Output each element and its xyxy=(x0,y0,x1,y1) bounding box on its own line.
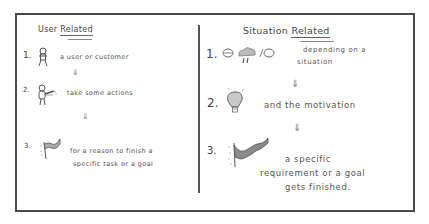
left-step-2-number: 2. xyxy=(23,86,30,94)
right-step-2-text: and the motivation xyxy=(264,99,356,111)
lightbulb-icon xyxy=(226,88,248,116)
right-step-3-number: 3. xyxy=(207,145,217,156)
right-step-1-text-line2: situation xyxy=(297,56,333,68)
flag-icon xyxy=(38,136,62,160)
right-step-3-text-line2: requirement or a goal xyxy=(260,167,365,179)
left-step-3-text-line1: for a reason to finish a xyxy=(70,146,153,156)
title-underlined-word: Related xyxy=(291,25,329,38)
person-acting-icon xyxy=(36,84,58,106)
down-arrow-icon: ⇓ xyxy=(82,112,89,121)
diagram-frame xyxy=(15,13,415,212)
left-step-1-text: a user or customer xyxy=(60,52,129,62)
right-step-2-number: 2. xyxy=(207,96,218,110)
right-step-3-text-line3: gets finished. xyxy=(285,181,351,193)
title-underlined-word: Related xyxy=(60,25,92,36)
left-step-2-text: take some actions xyxy=(67,88,133,98)
title-word: Situation xyxy=(243,25,288,36)
left-step-1-number: 1. xyxy=(23,50,32,60)
person-icon xyxy=(36,47,50,67)
flag-icon xyxy=(226,137,274,169)
down-arrow-icon: ⇓ xyxy=(72,68,79,77)
down-arrow-icon: ⇓ xyxy=(293,122,301,133)
right-step-3-text-line1: a specific xyxy=(285,153,331,165)
left-panel-title: User Related xyxy=(38,25,93,34)
right-panel-title: Situation Related xyxy=(243,25,330,36)
title-double-underline xyxy=(68,39,92,40)
panel-divider xyxy=(198,25,200,193)
title-word: User xyxy=(38,25,57,34)
left-step-3-text-line2: specific task or a goal xyxy=(73,159,153,169)
right-step-1-text-line1: depending on a xyxy=(303,44,366,56)
left-step-3-number: 3. xyxy=(24,142,31,150)
right-step-1-number: 1. xyxy=(206,47,217,61)
weather-situation-icon xyxy=(222,44,282,66)
down-arrow-icon: ⇓ xyxy=(291,78,299,89)
title-double-underline xyxy=(300,41,334,42)
